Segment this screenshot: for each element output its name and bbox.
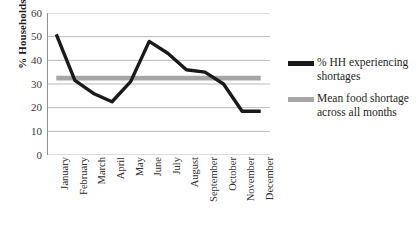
x-axis-tick-label: August [190, 157, 201, 187]
x-axis-tick-label: January [60, 157, 71, 190]
legend-label: % HH experiencing shortages [317, 56, 420, 83]
y-axis-tick-labels: 6050403020100 [18, 0, 42, 232]
x-axis-tick-label: May [135, 157, 146, 176]
y-axis-tick-label: 60 [20, 8, 42, 19]
line-chart: % Households 6050403020100 JanuaryFebrua… [0, 0, 420, 232]
legend-swatch-households [288, 61, 314, 66]
chart-legend: % HH experiencing shortagesMean food sho… [288, 56, 420, 128]
x-axis-tick-label: July [172, 157, 183, 175]
x-axis-tick-label: February [79, 157, 90, 195]
legend-entry: Mean food shortage across all months [288, 92, 420, 119]
x-axis-tick-label: April [116, 157, 127, 179]
x-axis-tick-label: December [265, 157, 276, 200]
series-line [56, 34, 260, 111]
y-axis-tick-label: 0 [20, 150, 42, 161]
y-axis-tick-label: 30 [20, 79, 42, 90]
x-axis-tick-labels: JanuaryFebruaryMarchAprilMayJuneJulyAugu… [47, 157, 270, 232]
x-axis-tick-label: October [228, 157, 239, 191]
y-axis-tick-label: 50 [20, 31, 42, 42]
plot-svg [47, 13, 270, 155]
x-axis-tick-label: March [97, 157, 108, 184]
legend-entry: % HH experiencing shortages [288, 56, 420, 83]
legend-label: Mean food shortage across all months [317, 92, 420, 119]
x-axis-tick-label: September [209, 157, 220, 202]
x-axis-tick-label: November [246, 157, 257, 201]
x-axis-tick-label: June [153, 157, 164, 176]
y-axis-tick-label: 40 [20, 55, 42, 66]
legend-swatch-mean [288, 97, 314, 102]
y-axis-tick-label: 20 [20, 102, 42, 113]
plot-area [47, 13, 270, 155]
y-axis-tick-label: 10 [20, 126, 42, 137]
series-lines [56, 34, 260, 111]
